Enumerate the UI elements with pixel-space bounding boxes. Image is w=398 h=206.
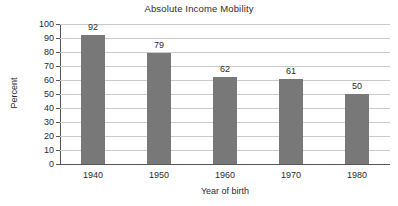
bar-value-label: 62 xyxy=(205,65,245,74)
bar xyxy=(81,35,105,164)
bar-value-label: 92 xyxy=(73,23,113,32)
gridline xyxy=(60,52,390,53)
y-axis-tick-label: 20 xyxy=(18,132,54,141)
bar-value-label: 50 xyxy=(337,82,377,91)
gridline xyxy=(60,38,390,39)
plot-area xyxy=(60,24,390,164)
y-axis-tick-label: 40 xyxy=(18,104,54,113)
bar xyxy=(213,77,237,164)
axis-baseline xyxy=(60,164,390,165)
x-axis-tick-label: 1950 xyxy=(134,171,184,180)
bar xyxy=(147,53,171,164)
x-axis-tick-label: 1980 xyxy=(332,171,382,180)
bar-value-label: 79 xyxy=(139,41,179,50)
y-axis-tick-label: 60 xyxy=(18,76,54,85)
bar xyxy=(279,79,303,164)
chart-title: Absolute Income Mobility xyxy=(0,3,398,14)
y-axis-tick-label: 80 xyxy=(18,48,54,57)
bar-value-label: 61 xyxy=(271,67,311,76)
y-axis-tick-label: 0 xyxy=(18,160,54,169)
y-axis-tick-label: 70 xyxy=(18,62,54,71)
bar xyxy=(345,94,369,164)
x-axis-tick-label: 1940 xyxy=(68,171,118,180)
y-axis-tick-label: 30 xyxy=(18,118,54,127)
x-axis-tick-label: 1960 xyxy=(200,171,250,180)
y-axis-tick-label: 50 xyxy=(18,90,54,99)
x-axis-tick-label: 1970 xyxy=(266,171,316,180)
bar-chart-figure: Absolute Income Mobility Percent 0102030… xyxy=(0,0,398,206)
y-axis-tick-label: 90 xyxy=(18,34,54,43)
y-axis-tick-label: 100 xyxy=(18,20,54,29)
y-axis-tick-label: 10 xyxy=(18,146,54,155)
x-axis-title: Year of birth xyxy=(60,186,390,196)
